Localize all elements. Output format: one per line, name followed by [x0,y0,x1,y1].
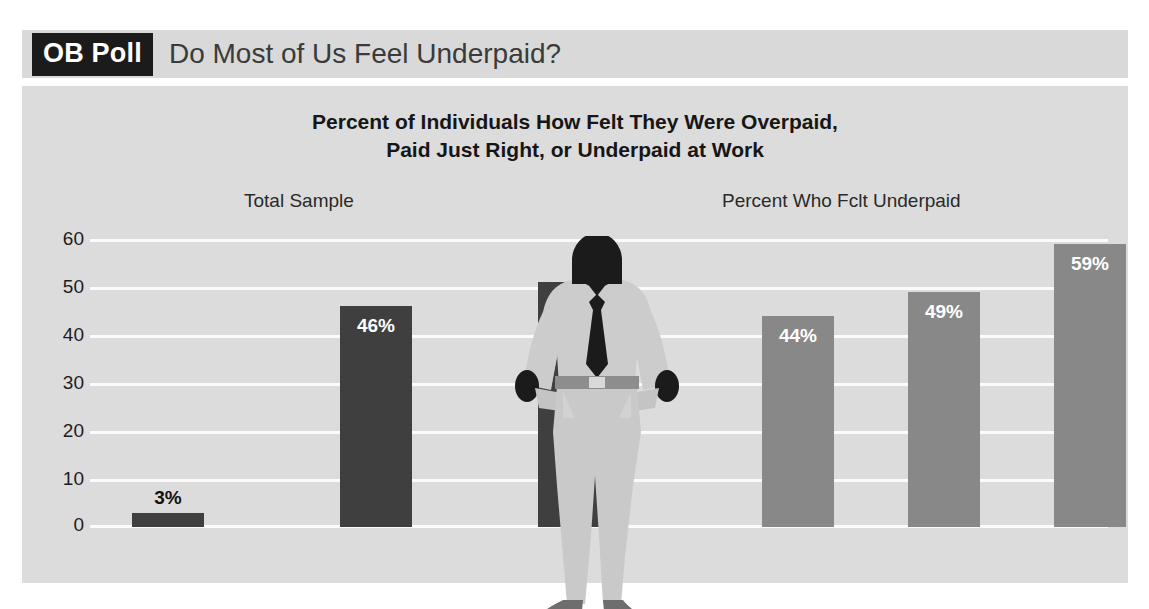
bar-value-democrats: 59% [1054,253,1126,275]
chart-title-line-1: Percent of Individuals How Felt They Wer… [22,108,1128,136]
page-title: Do Most of Us Feel Underpaid? [169,38,561,70]
bar-just-right: 46% [340,306,412,527]
bar-overpaid: 3% [132,513,204,527]
bar-value-independents: 49% [908,301,980,323]
bar-value-overpaid: 3% [132,487,204,509]
y-tick-50: 50 [38,276,84,298]
poll-badge: OB Poll [32,33,153,76]
y-tick-0: 0 [38,514,84,536]
bar-value-just-right: 46% [340,315,412,337]
panel-caption-left: Total Sample [244,190,354,212]
panel-caption-right: Percent Who Fclt Underpaid [722,190,961,212]
y-tick-40: 40 [38,324,84,346]
header-band: OB Poll Do Most of Us Feel Underpaid? [22,30,1128,78]
bar-value-republicans: 44% [762,325,834,347]
bar-independents: 49% [908,292,980,527]
poll-poster: OB Poll Do Most of Us Feel Underpaid? Pe… [0,0,1149,609]
bar-republicans: 44% [762,316,834,527]
bar-underpaid: 51% [538,282,610,527]
y-tick-10: 10 [38,468,84,490]
y-tick-20: 20 [38,420,84,442]
y-tick-30: 30 [38,372,84,394]
plot-area: 60 50 40 30 20 10 0 3% 46% 51% 44% 49% [90,239,1108,527]
y-tick-60: 60 [38,228,84,250]
chart-title-line-2: Paid Just Right, or Underpaid at Work [22,136,1128,164]
bar-democrats: 59% [1054,244,1126,527]
chart-title: Percent of Individuals How Felt They Wer… [22,108,1128,165]
chart-panel: Percent of Individuals How Felt They Wer… [22,86,1128,583]
bar-value-underpaid: 51% [538,291,610,313]
gridline-60 [90,239,1108,242]
